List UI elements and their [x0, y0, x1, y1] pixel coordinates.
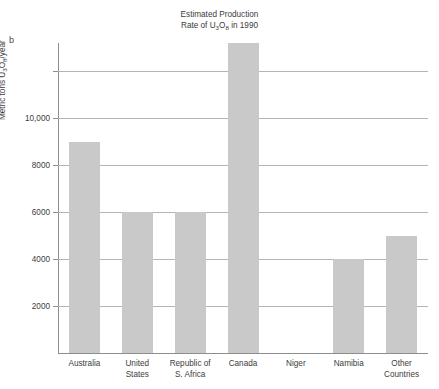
- chart-title-sub-3: 3: [216, 24, 219, 31]
- y-tick-label-2000: 2000: [32, 302, 50, 311]
- bar-namibia[interactable]: [333, 259, 364, 353]
- x-axis-spine: [58, 353, 428, 354]
- bar-other-countries[interactable]: [386, 236, 417, 353]
- plot-area: 200040006000800010,000: [58, 43, 428, 353]
- x-tick-label-republic-of-s-africa: Republic of S. Africa: [164, 359, 217, 380]
- chart-title-line-2-post: in 1990: [229, 21, 258, 30]
- y-tick-label-6000: 6000: [32, 208, 50, 217]
- x-tick-label-canada: Canada: [217, 359, 270, 370]
- y-tick-mark-2000: [53, 306, 58, 307]
- y-tick-mark-8000: [53, 165, 58, 166]
- chart-title-sub-8: 8: [225, 24, 228, 31]
- y-tick-mark-10000: [53, 118, 58, 119]
- y-axis-title-pre: Metric tons U: [0, 72, 7, 120]
- x-tick-label-australia: Australia: [58, 359, 111, 370]
- chart-title-line-2-pre: Rate of U: [181, 21, 216, 30]
- y-axis-title-post: /year: [0, 40, 7, 58]
- y-tick-label-4000: 4000: [32, 255, 50, 264]
- chart-title-line-1: Estimated Production: [0, 9, 439, 20]
- y-tick-mark-12000: [53, 71, 58, 72]
- y-axis-title-sub-8: 8: [1, 58, 8, 61]
- y-tick-label-8000: 8000: [32, 161, 50, 170]
- x-tick-label-united-states: United States: [111, 359, 164, 380]
- x-tick-label-niger: Niger: [269, 359, 322, 370]
- bar-republic-of-s-africa[interactable]: [175, 212, 206, 353]
- chart-title: Estimated Production Rate of U3O8 in 199…: [0, 9, 439, 31]
- x-tick-label-namibia: Namibia: [322, 359, 375, 370]
- x-tick-label-other-countries: Other Countries: [375, 359, 428, 380]
- bar-canada[interactable]: [228, 43, 259, 353]
- y-tick-mark-4000: [53, 259, 58, 260]
- bar-australia[interactable]: [69, 142, 100, 353]
- y-tick-label-10000: 10,000: [25, 114, 50, 123]
- chart-title-line-2: Rate of U3O8 in 1990: [0, 20, 439, 31]
- panel-letter: b: [9, 35, 14, 45]
- bar-united-states[interactable]: [122, 212, 153, 353]
- y-axis-title-sub-3: 3: [1, 68, 8, 71]
- y-tick-mark-6000: [53, 212, 58, 213]
- y-axis-title: Metric tons U3O8/year: [0, 0, 7, 120]
